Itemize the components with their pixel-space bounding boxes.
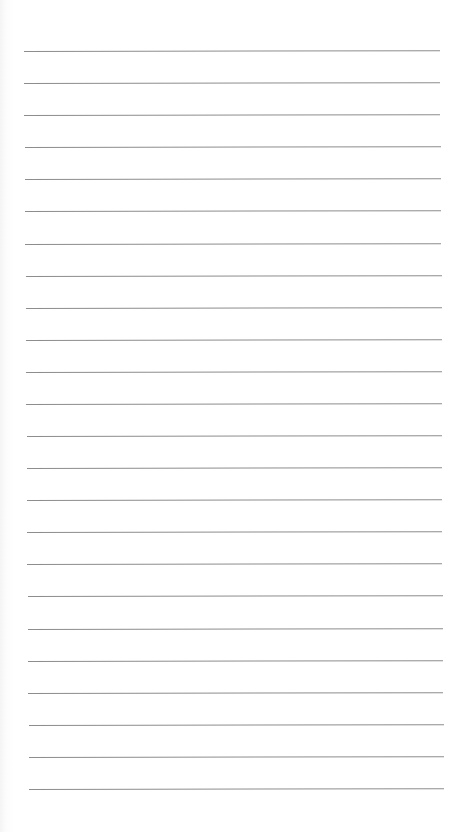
ruled-line <box>29 788 444 790</box>
ruled-line <box>26 307 442 309</box>
ruled-line <box>26 339 442 341</box>
lined-paper-page <box>0 0 463 832</box>
ruled-line <box>25 146 441 148</box>
ruled-line <box>27 467 442 469</box>
ruled-line <box>28 596 443 598</box>
ruled-line <box>28 692 443 694</box>
ruled-line <box>25 243 441 245</box>
ruled-line <box>26 275 442 277</box>
ruled-line <box>26 403 442 405</box>
ruled-line <box>26 371 442 373</box>
ruled-line <box>28 660 443 662</box>
ruled-line <box>25 211 441 213</box>
ruled-line <box>24 82 440 84</box>
ruled-line <box>24 50 440 52</box>
ruled-line <box>28 628 443 630</box>
ruled-line <box>27 564 442 566</box>
ruled-line <box>25 178 441 180</box>
ruled-line <box>27 531 442 533</box>
ruled-line <box>27 499 442 501</box>
ruled-line <box>29 756 444 758</box>
ruled-line <box>27 435 442 437</box>
ruled-line <box>24 114 440 116</box>
ruled-line <box>29 724 444 726</box>
